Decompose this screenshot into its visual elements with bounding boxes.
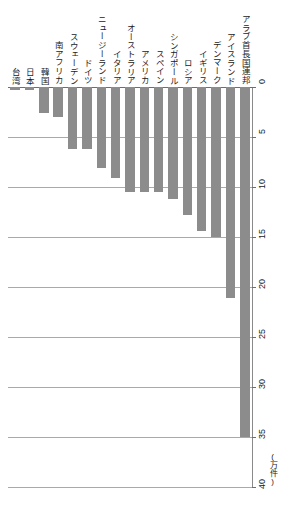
category-label: 台湾 <box>10 0 22 86</box>
bar <box>183 87 192 215</box>
tick-label-10: 10 <box>258 179 267 189</box>
bar <box>211 87 220 237</box>
category-label: ニュージーランド <box>96 0 108 86</box>
bar <box>10 87 19 90</box>
bar <box>226 87 235 298</box>
category-label-text: アラブ首長国連邦 <box>240 15 249 85</box>
category-label-text: アメリカ <box>139 50 148 85</box>
bar <box>39 87 48 113</box>
category-label-text: ロシア <box>182 59 191 85</box>
tick-mark-20 <box>252 287 256 288</box>
gridline-20 <box>8 287 252 288</box>
category-label-text: スペイン <box>154 50 163 85</box>
category-label: オーストラリア <box>125 0 137 86</box>
tick-mark-30 <box>252 387 256 388</box>
tick-label-35: 35 <box>258 429 267 439</box>
bar <box>25 87 34 90</box>
category-label-text: 台湾 <box>10 68 19 85</box>
tick-mark-25 <box>252 337 256 338</box>
tick-mark-10 <box>252 187 256 188</box>
category-label: イギリス <box>197 0 209 86</box>
tick-label-15: 15 <box>258 229 267 239</box>
tick-label-25: 25 <box>258 329 267 339</box>
category-label-text: 南アフリカ <box>53 41 62 85</box>
category-label: シンガポール <box>168 0 180 86</box>
gridline-40 <box>8 487 252 488</box>
gridline-15 <box>8 237 252 238</box>
bar <box>240 87 249 437</box>
bar <box>197 87 206 231</box>
tick-label-20: 20 <box>258 279 267 289</box>
tick-mark-0 <box>252 87 256 88</box>
category-label-text: シンガポール <box>168 33 177 85</box>
category-label-text: 日本 <box>25 68 34 85</box>
bar <box>68 87 77 149</box>
unit-label: (万件) <box>268 452 276 486</box>
tick-mark-15 <box>252 237 256 238</box>
tick-mark-5 <box>252 137 256 138</box>
category-label: スウェーデン <box>68 0 80 86</box>
category-label: アラブ首長国連邦 <box>240 0 252 86</box>
gridline-25 <box>8 337 252 338</box>
bar <box>140 87 149 192</box>
bar <box>97 87 106 168</box>
category-label: スペイン <box>154 0 166 86</box>
category-label: 日本 <box>25 0 37 86</box>
category-label-text: オーストラリア <box>125 24 134 85</box>
bar <box>125 87 134 192</box>
category-label-text: ニュージーランド <box>96 15 105 85</box>
category-label-text: イギリス <box>197 50 206 85</box>
plot-area <box>8 87 252 487</box>
category-label: デンマーク <box>211 0 223 86</box>
category-label: イタリア <box>111 0 123 86</box>
tick-mark-40 <box>252 487 256 488</box>
category-label: アイスランド <box>225 0 237 86</box>
category-label: ドイツ <box>82 0 94 86</box>
category-label-text: デンマーク <box>211 41 220 85</box>
tick-mark-35 <box>252 437 256 438</box>
tick-label-40: 40 <box>258 479 267 489</box>
bar-chart: 0510152025303540 (万件) 台湾日本韓国南アフリカスウェーデンド… <box>0 0 288 526</box>
category-label-text: スウェーデン <box>68 33 77 85</box>
bar <box>82 87 91 149</box>
category-label: 南アフリカ <box>53 0 65 86</box>
category-label: ロシア <box>182 0 194 86</box>
category-label: 韓国 <box>39 0 51 86</box>
bar <box>111 87 120 178</box>
bar <box>53 87 62 117</box>
tick-label-0: 0 <box>258 79 267 84</box>
category-label-text: アイスランド <box>225 33 234 85</box>
tick-label-5: 5 <box>258 129 267 134</box>
tick-label-30: 30 <box>258 379 267 389</box>
category-label-text: イタリア <box>111 50 120 85</box>
category-label-text: 韓国 <box>39 68 48 85</box>
gridline-35 <box>8 437 252 438</box>
bar <box>168 87 177 199</box>
bar <box>154 87 163 192</box>
gridline-30 <box>8 387 252 388</box>
category-label: アメリカ <box>139 0 151 86</box>
category-label-text: ドイツ <box>82 59 91 85</box>
